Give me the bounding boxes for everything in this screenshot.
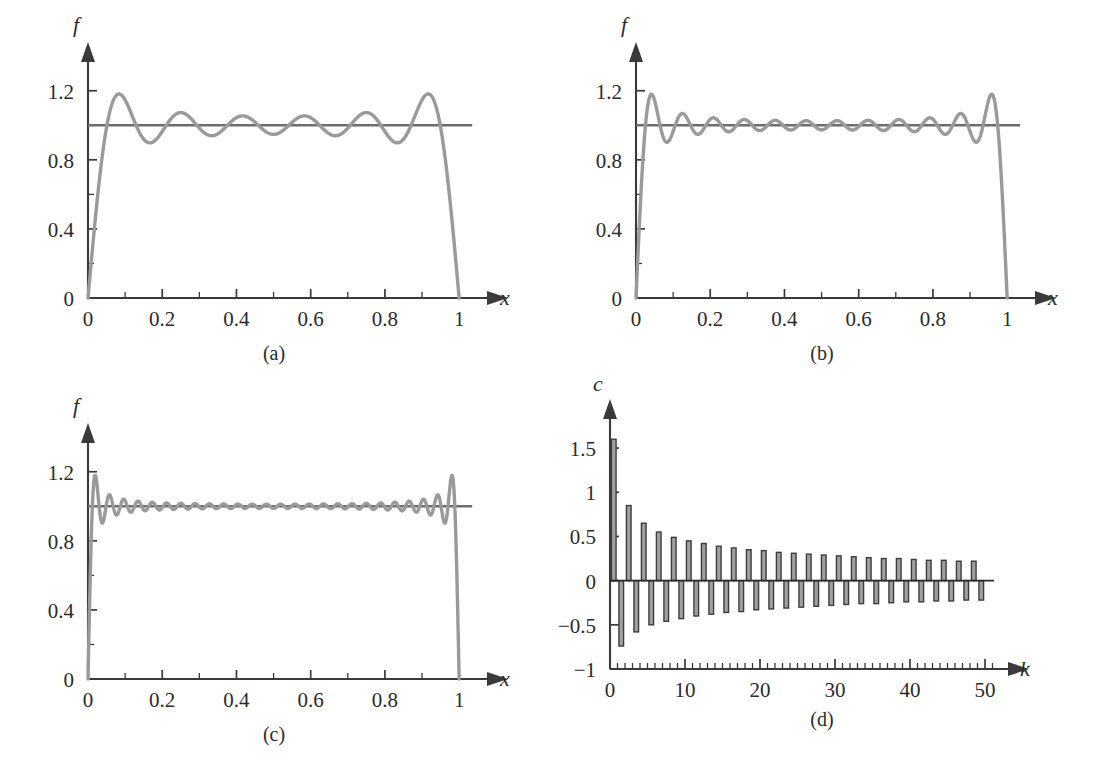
panel-b-plot: 00.20.40.60.81 00.40.81.2 x f (b) — [548, 0, 1096, 381]
panel-d-bar — [911, 559, 916, 580]
panel-b-x-ticklabels: 00.20.40.60.81 — [631, 307, 1013, 331]
panel-d-bar — [701, 544, 706, 581]
panel-d-ytick-label: −0.5 — [558, 614, 596, 638]
panel-d-bar — [724, 581, 729, 613]
panel-b-xtick-label: 0.4 — [771, 307, 798, 331]
panel-d-bar — [934, 581, 939, 601]
panel-d-x-axis-label: k — [1020, 656, 1031, 681]
panel-d-bar — [866, 558, 871, 581]
panel-a-x-ticklabels: 00.20.40.60.81 — [83, 307, 465, 331]
panel-d-bar — [709, 581, 714, 615]
panel-d-bar — [881, 559, 886, 581]
panel-c-xtick-label: 0.6 — [298, 688, 324, 712]
panel-d-bar — [664, 581, 669, 622]
panel-b-axes — [629, 42, 1056, 305]
panel-a-xtick-label: 0 — [83, 307, 94, 331]
panel-c-xtick-label: 0 — [83, 688, 94, 712]
panel-d-bar — [634, 581, 639, 632]
panel-d-y-ticklabels: −1−0.500.511.5 — [558, 437, 596, 682]
panel-d-xtick-label: 30 — [825, 678, 846, 702]
panel-c-xtick-label: 0.8 — [372, 688, 398, 712]
panel-a-axes — [81, 42, 508, 305]
panel-d-x-ticklabels: 01020304050 — [605, 678, 996, 702]
panel-b-ytick-label: 0 — [612, 287, 623, 311]
panel-c-xtick-label: 1 — [454, 688, 465, 712]
panel-d-bar — [784, 581, 789, 608]
panel-d-bar — [956, 561, 961, 580]
panel-b-xtick-label: 0 — [631, 307, 642, 331]
panel-d-ytick-label: 1 — [586, 481, 597, 505]
panel-d-caption: (d) — [810, 708, 833, 731]
panel-d-bar — [821, 555, 826, 581]
panel-b-xtick-label: 0.6 — [846, 307, 872, 331]
panel-c: 00.20.40.60.81 00.40.81.2 x f (c) — [0, 381, 548, 762]
panel-d-bar — [971, 561, 976, 580]
panel-d-bar — [619, 581, 624, 646]
panel-b-xtick-label: 0.8 — [920, 307, 946, 331]
panel-d-bar — [656, 532, 661, 581]
panel-b-ytick-label: 0.4 — [596, 218, 623, 242]
panel-a-xtick-label: 1 — [454, 307, 465, 331]
panel-c-ytick-label: 0.8 — [48, 530, 74, 554]
panel-d-bar — [679, 581, 684, 619]
panel-d-bar — [611, 439, 616, 580]
panel-a-caption: (a) — [263, 342, 285, 365]
panel-d-xtick-label: 0 — [605, 678, 616, 702]
panel-d-xtick-label: 10 — [675, 678, 696, 702]
panel-a-ytick-label: 1.2 — [48, 80, 74, 104]
panel-d-bars — [611, 439, 983, 646]
panel-a: 00.20.40.60.81 00.40.81.2 x f (a) — [0, 0, 548, 381]
panel-b-caption: (b) — [810, 342, 833, 365]
panel-c-plot: 00.20.40.60.81 00.40.81.2 x f (c) — [0, 381, 548, 762]
panel-a-y-ticklabels: 00.40.81.2 — [48, 80, 75, 311]
panel-d-bar — [919, 581, 924, 602]
panel-c-ytick-label: 1.2 — [48, 461, 74, 485]
panel-b-x-axis-label: x — [1047, 285, 1058, 310]
panel-d-bar — [964, 581, 969, 600]
panel-d-xtick-label: 20 — [750, 678, 771, 702]
panel-b-ytick-label: 1.2 — [596, 80, 622, 104]
panel-a-plot: 00.20.40.60.81 00.40.81.2 x f (a) — [0, 0, 548, 381]
panel-d-bar — [761, 551, 766, 581]
panel-a-xtick-label: 0.2 — [149, 307, 175, 331]
panel-d-bar — [746, 550, 751, 581]
panel-d-bar — [694, 581, 699, 616]
panel-c-ytick-label: 0 — [64, 668, 75, 692]
panel-d-ytick-label: 1.5 — [570, 437, 596, 461]
panel-d-bar — [649, 581, 654, 625]
panel-c-ytick-label: 0.4 — [48, 599, 75, 623]
panel-d-bar — [904, 581, 909, 602]
panel-d-xtick-label: 40 — [900, 678, 921, 702]
panel-d-bar — [896, 559, 901, 581]
gibbs-phenomenon-figure: 00.20.40.60.81 00.40.81.2 x f (a) 00.20.… — [0, 0, 1096, 762]
panel-c-axes — [81, 423, 508, 686]
panel-d-bar — [806, 554, 811, 581]
panel-a-ytick-label: 0.4 — [48, 218, 75, 242]
panel-c-y-axis-label: f — [73, 393, 82, 418]
panel-b-xtick-label: 0.2 — [697, 307, 723, 331]
panel-d-x-ticks — [610, 659, 993, 669]
panel-d-bar — [874, 581, 879, 604]
panel-d-bar — [716, 546, 721, 580]
panel-b: 00.20.40.60.81 00.40.81.2 x f (b) — [548, 0, 1096, 381]
panel-d-bar — [926, 560, 931, 580]
panel-d-xtick-label: 50 — [975, 678, 996, 702]
panel-b-xtick-label: 1 — [1002, 307, 1013, 331]
panel-d-bar — [626, 506, 631, 581]
panel-d-bar — [949, 581, 954, 601]
panel-d-bar — [799, 581, 804, 608]
panel-d-bar — [851, 557, 856, 581]
panel-a-ytick-label: 0.8 — [48, 149, 74, 173]
panel-c-xtick-label: 0.2 — [149, 688, 175, 712]
panel-b-y-axis-label: f — [621, 12, 630, 37]
panel-b-y-ticklabels: 00.40.81.2 — [596, 80, 623, 311]
panel-d-axes — [603, 399, 1029, 676]
panel-a-xtick-label: 0.8 — [372, 307, 398, 331]
panel-c-xtick-label: 0.4 — [223, 688, 250, 712]
panel-c-caption: (c) — [263, 723, 285, 746]
panel-d-bar — [979, 581, 984, 600]
panel-d-bar — [814, 581, 819, 607]
panel-d-bar — [769, 581, 774, 609]
panel-c-x-axis-label: x — [499, 666, 510, 691]
panel-d-bar — [754, 581, 759, 610]
